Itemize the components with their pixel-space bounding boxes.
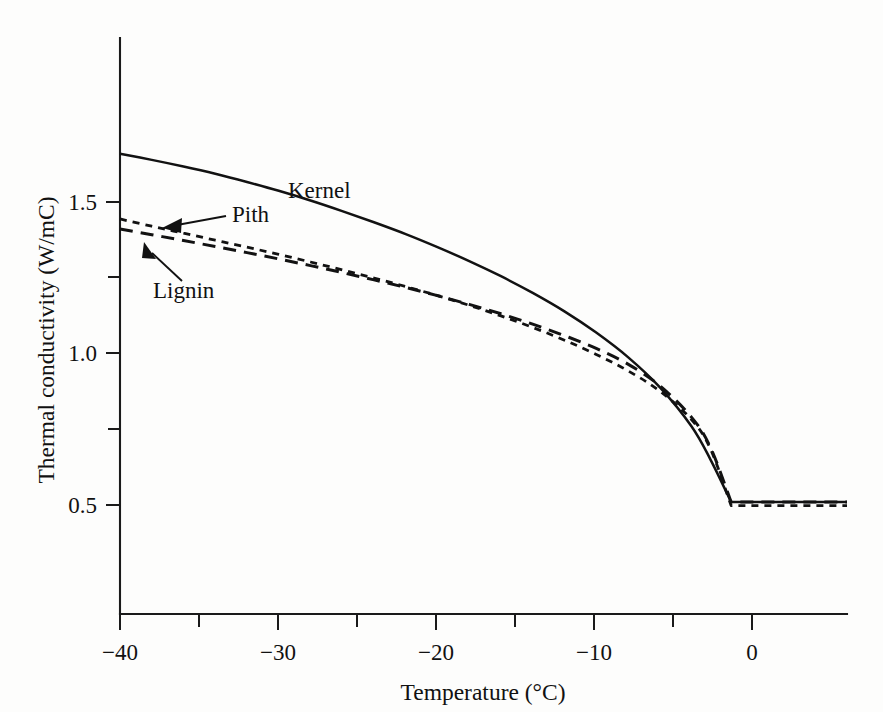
x-tick-labels: −40 −30 −20 −10 0 (102, 640, 758, 665)
pith-label: Pith (232, 202, 270, 227)
lignin-arrow-head-icon (142, 242, 156, 259)
thermal-conductivity-chart: 1.5 1.0 0.5 −40 −30 −20 −10 0 Temperatur… (0, 0, 883, 712)
y-tick-label-1p0: 1.0 (68, 341, 97, 366)
x-tick-label-minus20: −20 (418, 640, 454, 665)
y-axis-title: Thermal conductivity (W/mC) (33, 196, 59, 483)
y-tick-group (106, 202, 120, 505)
annotation-pith: Pith (162, 202, 270, 233)
y-tick-label-1p5: 1.5 (68, 190, 97, 215)
y-tick-label-0p5: 0.5 (68, 493, 97, 518)
kernel-label: Kernel (288, 178, 351, 203)
series-line-pith (120, 219, 847, 506)
x-tick-label-minus30: −30 (260, 640, 296, 665)
annotation-lignin: Lignin (142, 242, 215, 303)
axis-group (120, 38, 847, 614)
y-tick-labels: 1.5 1.0 0.5 (68, 190, 97, 518)
x-tick-group (120, 614, 752, 630)
x-tick-label-minus40: −40 (102, 640, 138, 665)
lignin-arrow-shaft (152, 253, 182, 281)
figure-container: 1.5 1.0 0.5 −40 −30 −20 −10 0 Temperatur… (0, 0, 883, 712)
series-line-kernel (120, 154, 847, 502)
annotation-kernel: Kernel (288, 178, 351, 203)
x-axis-title: Temperature (°C) (401, 679, 566, 705)
lignin-label: Lignin (153, 278, 215, 303)
x-tick-label-zero: 0 (746, 640, 758, 665)
x-tick-label-minus10: −10 (576, 640, 612, 665)
pith-arrow-shaft (177, 216, 226, 225)
data-curves (120, 154, 847, 506)
series-line-lignin (120, 229, 847, 502)
